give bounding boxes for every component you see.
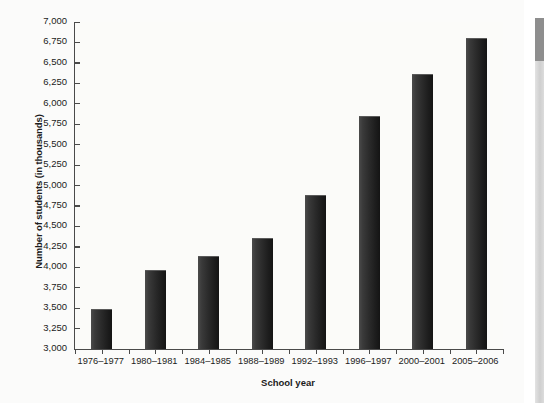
bar bbox=[145, 270, 166, 349]
x-axis-tick-label: 2000–2001 bbox=[395, 356, 449, 366]
x-axis-tick-label: 1980–1981 bbox=[128, 356, 182, 366]
y-axis-tick-label: 4,750 bbox=[43, 199, 67, 210]
x-axis-tick-mark bbox=[476, 349, 477, 354]
bar bbox=[359, 116, 380, 349]
x-axis-boundary-tick bbox=[182, 349, 183, 354]
page-edge-top bbox=[535, 0, 544, 18]
bar-slot bbox=[396, 22, 450, 349]
x-axis-tick-mark bbox=[102, 349, 103, 354]
x-axis-tick-label: 2005–2006 bbox=[449, 356, 503, 366]
y-axis-tick-label: 6,000 bbox=[43, 97, 67, 108]
bar bbox=[91, 309, 112, 349]
x-axis-tick-label: 1992–1993 bbox=[288, 356, 342, 366]
x-axis-boundary-tick bbox=[450, 349, 451, 354]
bar bbox=[305, 195, 326, 349]
page-edge-dark-segment bbox=[535, 18, 544, 61]
page-edge-light-segment bbox=[535, 61, 544, 403]
x-axis-tick-mark bbox=[209, 349, 210, 354]
bar bbox=[412, 74, 433, 349]
y-axis-tick-label: 4,250 bbox=[43, 240, 67, 251]
x-axis-title: School year bbox=[74, 377, 502, 388]
y-axis-tick-label: 4,500 bbox=[43, 219, 67, 230]
x-axis-tick-mark bbox=[423, 349, 424, 354]
bar bbox=[466, 38, 487, 349]
y-axis-tick-label: 3,750 bbox=[43, 281, 67, 292]
y-axis-tick-label: 6,250 bbox=[43, 76, 67, 87]
y-axis-tick-label: 3,250 bbox=[43, 322, 67, 333]
y-axis-tick-label: 6,750 bbox=[43, 35, 67, 46]
bar-slot bbox=[289, 22, 343, 349]
x-axis-boundary-tick bbox=[343, 349, 344, 354]
y-axis-tick-label: 6,500 bbox=[43, 56, 67, 67]
x-axis-boundary-tick bbox=[289, 349, 290, 354]
x-axis-tick-mark bbox=[262, 349, 263, 354]
y-axis-tick-label: 3,000 bbox=[43, 342, 67, 353]
bar bbox=[198, 256, 219, 349]
x-axis-boundary-tick bbox=[236, 349, 237, 354]
x-axis-boundary-tick bbox=[396, 349, 397, 354]
y-axis-tick-label: 5,250 bbox=[43, 158, 67, 169]
y-axis-tick-label: 3,500 bbox=[43, 301, 67, 312]
bar-chart-figure: Number of students (in thousands) 3,0003… bbox=[0, 0, 524, 403]
y-axis-tick-label: 7,000 bbox=[43, 15, 67, 26]
x-axis-tick-label: 1996–1997 bbox=[342, 356, 396, 366]
x-axis-tick-label: 1984–1985 bbox=[181, 356, 235, 366]
x-axis-tick-mark bbox=[316, 349, 317, 354]
plot-area: 3,0003,2503,5003,7504,0004,2504,5004,750… bbox=[74, 22, 503, 350]
x-axis-boundary-tick bbox=[75, 349, 76, 354]
bar-slot bbox=[343, 22, 397, 349]
page-edge-strip bbox=[535, 0, 544, 403]
bar-series bbox=[75, 22, 503, 349]
y-axis-tick-label: 5,750 bbox=[43, 117, 67, 128]
bar bbox=[252, 238, 273, 349]
bar-slot bbox=[236, 22, 290, 349]
x-axis-tick-label: 1976–1977 bbox=[74, 356, 128, 366]
y-axis-tick-label: 5,500 bbox=[43, 138, 67, 149]
x-axis-boundary-tick bbox=[503, 349, 504, 354]
bar-slot bbox=[75, 22, 129, 349]
bar-slot bbox=[129, 22, 183, 349]
bar-slot bbox=[182, 22, 236, 349]
x-axis-tick-mark bbox=[369, 349, 370, 354]
x-axis-tick-label: 1988–1989 bbox=[235, 356, 289, 366]
x-axis-boundary-tick bbox=[129, 349, 130, 354]
y-axis-tick-label: 5,000 bbox=[43, 179, 67, 190]
y-axis-title: Number of students (in thousands) bbox=[33, 62, 44, 322]
y-axis-tick-label: 4,000 bbox=[43, 260, 67, 271]
x-axis-tick-mark bbox=[155, 349, 156, 354]
bar-slot bbox=[450, 22, 504, 349]
